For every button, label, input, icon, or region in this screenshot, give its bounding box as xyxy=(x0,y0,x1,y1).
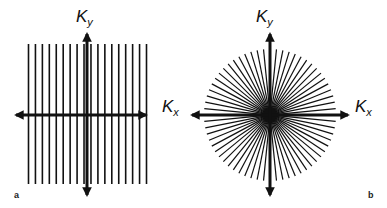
panel-b-kx-label: Kx xyxy=(355,98,372,118)
panel-b-label: b xyxy=(368,190,374,200)
panel-b-ky-label: Ky xyxy=(256,8,273,28)
panel-a-kx-label: Kx xyxy=(162,98,179,118)
kspace-figure xyxy=(0,0,387,208)
panel-a-label: a xyxy=(14,190,19,200)
panel-a-ky-label: Ky xyxy=(76,8,93,28)
panel-b-axes xyxy=(192,34,348,195)
